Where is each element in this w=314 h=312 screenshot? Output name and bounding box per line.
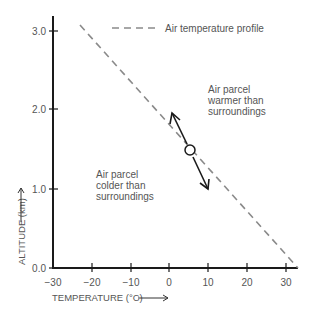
svg-text:−30: −30: [45, 277, 62, 288]
legend-label: Air temperature profile: [165, 23, 264, 34]
chart: 3.0 2.0 1.0 0.0 −30 −20 −10 0 10 20 30 T…: [0, 0, 314, 312]
svg-text:2.0: 2.0: [32, 104, 46, 115]
air-parcel-marker: [185, 145, 195, 155]
svg-text:30: 30: [280, 277, 292, 288]
annotation-warmer: Air parcel warmer than surroundings: [207, 84, 266, 117]
svg-text:−20: −20: [84, 277, 101, 288]
svg-text:0: 0: [166, 277, 172, 288]
svg-text:0.0: 0.0: [32, 263, 46, 274]
svg-text:Air parcel: Air parcel: [96, 169, 138, 180]
svg-text:3.0: 3.0: [32, 26, 46, 37]
x-tick-labels: −30 −20 −10 0 10 20 30: [45, 277, 292, 288]
svg-text:surroundings: surroundings: [208, 106, 266, 117]
svg-text:20: 20: [241, 277, 253, 288]
svg-text:−10: −10: [123, 277, 140, 288]
svg-text:colder than: colder than: [96, 180, 145, 191]
sink-arrow-icon: [193, 157, 209, 189]
svg-text:Air parcel: Air parcel: [208, 84, 250, 95]
y-tick-labels: 3.0 2.0 1.0 0.0: [32, 26, 46, 274]
svg-text:warmer than: warmer than: [207, 95, 264, 106]
x-axis-label: TEMPERATURE (°C): [52, 292, 143, 303]
svg-text:1.0: 1.0: [32, 184, 46, 195]
svg-text:10: 10: [202, 277, 214, 288]
annotation-colder: Air parcel colder than surroundings: [96, 169, 154, 202]
svg-text:surroundings: surroundings: [96, 191, 154, 202]
